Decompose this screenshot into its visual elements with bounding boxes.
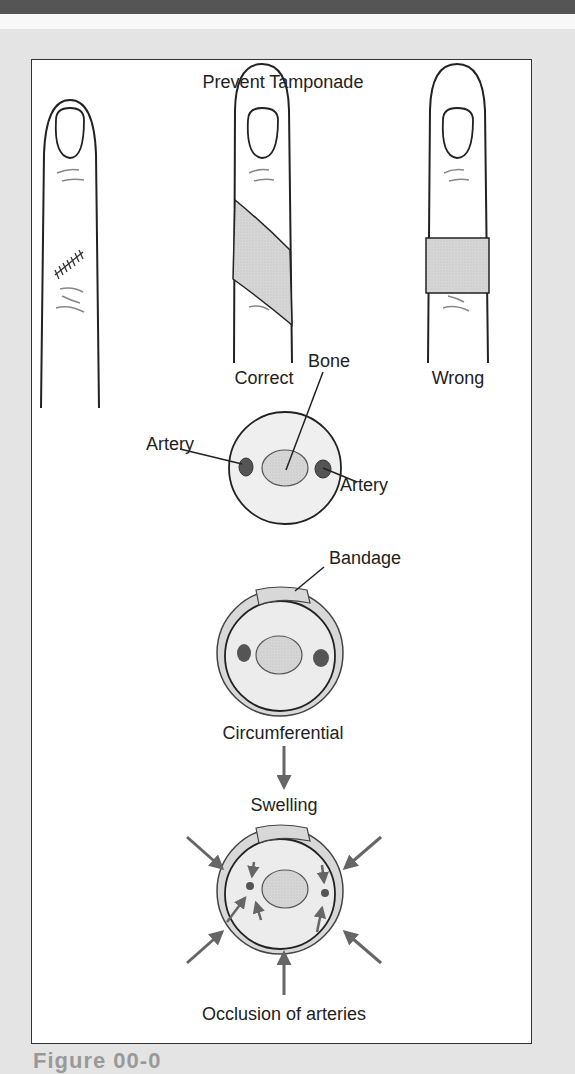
label-swelling: Swelling (250, 795, 317, 816)
figure-frame: Prevent Tamponade Correct Wrong Bone Art… (31, 59, 532, 1044)
label-artery-left: Artery (146, 434, 194, 455)
finger-label-correct: Correct (234, 368, 293, 389)
finger-sutured (41, 100, 99, 408)
cross-section-bandaged (217, 567, 343, 716)
top-banner (0, 0, 575, 14)
figure-caption: Figure 00-0 (33, 1048, 161, 1074)
label-occlusion: Occlusion of arteries (202, 1004, 366, 1025)
suture-icon (55, 250, 83, 279)
figure-title: Prevent Tamponade (203, 72, 364, 93)
label-bone: Bone (308, 351, 350, 372)
finger-wrong (426, 64, 489, 363)
label-artery-right: Artery (340, 475, 388, 496)
finger-correct (233, 64, 292, 363)
circumferential-bandage (426, 238, 489, 293)
top-strip (0, 14, 575, 29)
label-circumferential: Circumferential (222, 723, 343, 744)
label-bandage: Bandage (329, 548, 401, 569)
cross-section-normal (180, 372, 357, 524)
cross-section-swelling (217, 825, 343, 954)
finger-label-wrong: Wrong (432, 368, 485, 389)
figure-illustration (32, 60, 533, 1045)
